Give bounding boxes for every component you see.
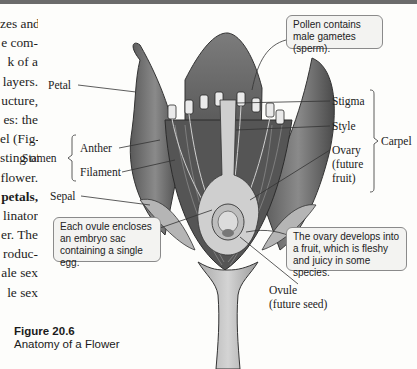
label-ovary-fruit: fruit) — [332, 172, 356, 185]
label-stigma: Stigma — [332, 95, 365, 108]
callout-ovule: Each ovule encloses an embryo sac contai… — [53, 217, 161, 262]
label-sepal: Sepal — [50, 190, 76, 203]
label-ovule-future-seed: (future seed) — [269, 298, 327, 311]
label-petal: Petal — [48, 79, 71, 92]
label-anther: Anther — [80, 142, 112, 155]
figure-title: Anatomy of a Flower — [14, 338, 119, 351]
stamen-bracket — [68, 135, 76, 181]
figure-caption: Figure 20.6 Anatomy of a Flower — [14, 325, 119, 351]
label-ovary-future: (future — [332, 158, 363, 171]
label-ovary: Ovary — [332, 144, 361, 157]
carpel-bracket — [370, 90, 378, 192]
callout-pollen: Pollen contains male gametes (sperm). — [286, 15, 383, 49]
label-stamen: Stamen — [22, 152, 57, 165]
figure-number: Figure 20.6 — [14, 325, 119, 338]
label-style: Style — [332, 120, 356, 133]
label-ovule: Ovule — [269, 284, 297, 297]
stem — [198, 262, 258, 369]
label-carpel: Carpel — [381, 135, 412, 148]
callout-ovary: The ovary develops into a fruit, which i… — [286, 227, 407, 271]
label-filament: Filament — [80, 166, 121, 179]
